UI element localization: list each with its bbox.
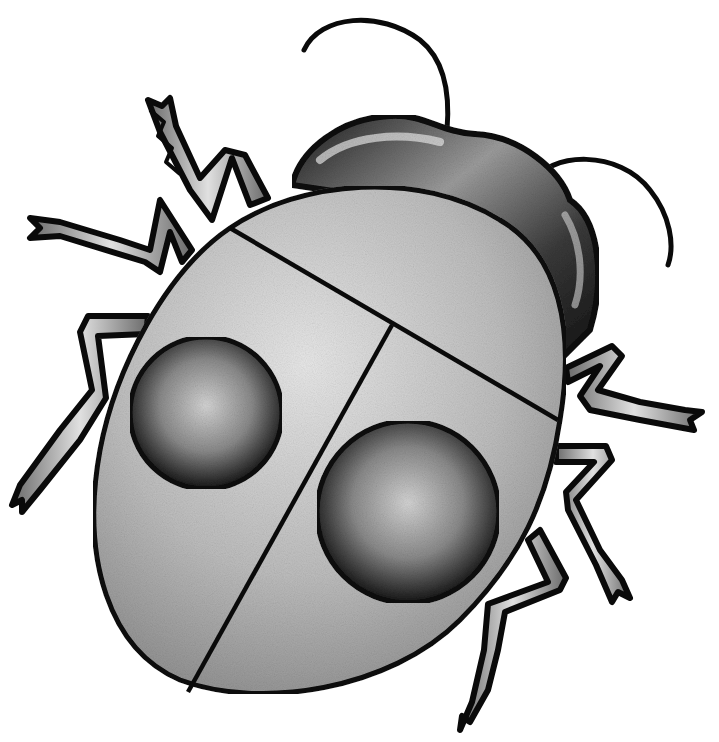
leg-middle-left bbox=[30, 200, 192, 272]
shell-spot-right bbox=[317, 421, 499, 603]
ladybug-illustration bbox=[0, 0, 719, 742]
antenna-left bbox=[304, 20, 448, 130]
leg-front-left bbox=[148, 98, 268, 220]
shell-spot-left bbox=[130, 337, 282, 489]
leg-front-right bbox=[566, 346, 702, 430]
